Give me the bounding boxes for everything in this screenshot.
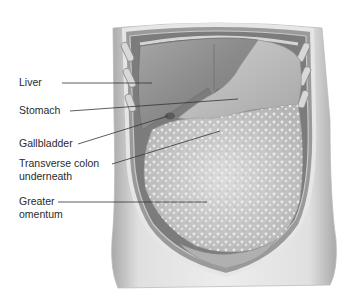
label-transverse-colon-line1: Transverse colon	[19, 157, 99, 170]
label-transverse-colon-line2: underneath	[19, 170, 72, 183]
label-stomach: Stomach	[19, 104, 60, 117]
label-greater-omentum-line1: Greater	[19, 195, 55, 208]
gallbladder	[165, 113, 175, 120]
label-gallbladder: Gallbladder	[19, 137, 73, 150]
label-liver: Liver	[19, 76, 42, 89]
label-greater-omentum-line2: omentum	[19, 208, 63, 221]
abdomen-diagram: Liver Stomach Gallbladder Transverse col…	[0, 0, 350, 294]
